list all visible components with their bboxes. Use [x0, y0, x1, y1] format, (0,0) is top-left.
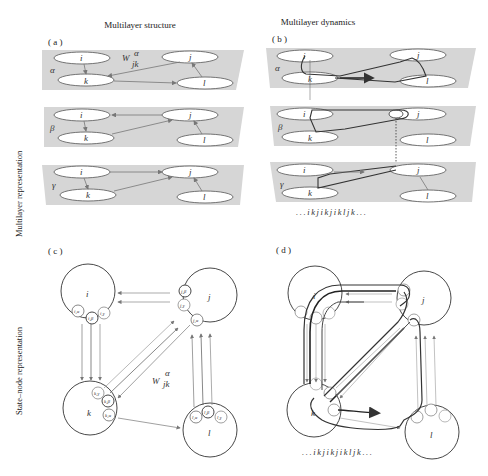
- panel-d-state-dynamics: i j k l: [287, 266, 459, 459]
- svg-text:j: j: [421, 295, 425, 305]
- layer-alpha-plane: i j k l α W α jk: [42, 48, 244, 90]
- svg-text:j: j: [416, 109, 420, 119]
- walk-sequence-b: ...ikjikjikljk...: [296, 207, 368, 217]
- layer-gamma-plane: i j k l γ: [42, 165, 244, 205]
- svg-text:j: j: [188, 52, 192, 62]
- panel-b-dynamics: i j k l α i j k l β: [266, 48, 476, 202]
- svg-text:α: α: [165, 368, 170, 378]
- svg-text:jk: jk: [162, 379, 171, 389]
- svg-text:α: α: [134, 48, 139, 58]
- svg-text:β: β: [277, 122, 283, 132]
- layer-gamma-plane-b: i j k l γ: [270, 162, 476, 202]
- svg-text:γ: γ: [280, 179, 284, 189]
- diagram-canvas: i j k l α W α jk i j k l β: [0, 0, 488, 476]
- svg-text:α: α: [50, 65, 55, 75]
- layer-beta-plane-b: i j k l β: [270, 106, 476, 165]
- panel-c-state-nodes: i j k l i,α i,β i,γ j,β j,γ j,α k,γ k,β …: [61, 264, 237, 457]
- svg-text:j: j: [416, 165, 420, 175]
- svg-text:β: β: [49, 123, 55, 133]
- svg-text:γ: γ: [52, 180, 56, 190]
- svg-text:j: j: [207, 292, 211, 302]
- svg-text:j: j: [188, 167, 192, 177]
- layer-beta-plane: i j k l β: [44, 107, 244, 147]
- layer-alpha-plane-b: i j k l α: [266, 48, 476, 100]
- svg-text:W: W: [152, 376, 161, 386]
- svg-text:j: j: [188, 110, 192, 120]
- walk-sequence-d: ...ikjikjikljk...: [302, 447, 374, 457]
- svg-text:jk: jk: [131, 59, 140, 69]
- panel-a-structure: i j k l α W α jk i j k l β: [42, 48, 244, 205]
- svg-text:j: j: [416, 50, 420, 60]
- svg-text:α: α: [275, 63, 280, 73]
